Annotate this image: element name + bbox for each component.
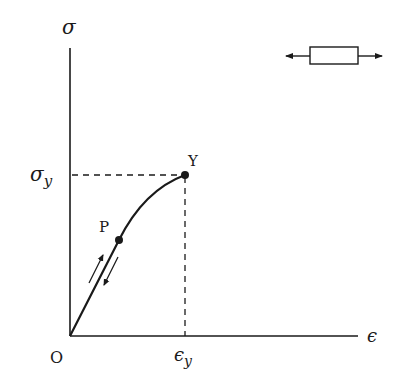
point-y-label: Y <box>187 152 199 170</box>
tension-specimen-icon <box>286 47 382 64</box>
point-y-marker <box>181 171 189 179</box>
stress-strain-curve <box>70 175 185 336</box>
y-axis-label: σ <box>62 15 77 39</box>
x-axis-label: ϵ <box>367 325 377 346</box>
unloading-arrow-icon <box>104 257 118 285</box>
yield-strain-label: ϵy <box>174 344 193 369</box>
point-p-label: P <box>99 218 109 236</box>
yield-stress-label: σy <box>30 162 53 190</box>
origin-label: O <box>50 348 63 367</box>
point-p-marker <box>115 236 123 244</box>
loading-arrow-icon <box>89 255 103 283</box>
stress-strain-diagram: σ ϵ O σy ϵy P Y <box>0 0 410 382</box>
